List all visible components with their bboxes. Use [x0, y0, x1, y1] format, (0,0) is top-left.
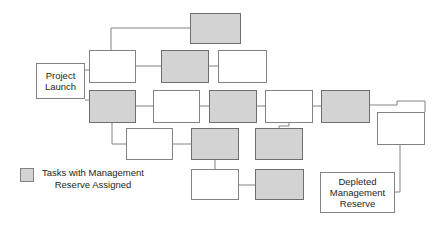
legend-label-line2: Reserve Assigned — [38, 179, 148, 191]
network-diagram-canvas: Project Launch Depleted Management Reser… — [0, 0, 446, 227]
node-task-r3-c3[interactable] — [209, 90, 257, 123]
node-task-r3-c6[interactable] — [377, 112, 425, 145]
node-project-launch[interactable]: Project Launch — [36, 63, 85, 99]
node-project-launch-label: Project Launch — [45, 70, 76, 92]
node-task-r3-c4[interactable] — [265, 90, 313, 123]
node-task-r5-c2[interactable] — [255, 169, 304, 200]
node-task-r2-c1[interactable] — [89, 50, 136, 83]
node-task-r2-c3[interactable] — [218, 50, 267, 83]
node-task-r3-c1[interactable] — [89, 90, 136, 123]
node-task-r4-c2[interactable] — [191, 128, 239, 160]
edge-r3c1-to-r4c1 — [112, 123, 126, 144]
node-depleted-management-reserve[interactable]: Depleted Management Reserve — [320, 172, 395, 213]
node-task-r5-c1[interactable] — [191, 169, 239, 200]
node-task-r4-c1[interactable] — [126, 128, 173, 160]
edge-r3c6-to-depleted — [395, 145, 400, 192]
node-task-r3-c2[interactable] — [153, 90, 200, 123]
node-task-r4-c3[interactable] — [255, 128, 303, 160]
node-depleted-management-reserve-label: Depleted Management Reserve — [330, 176, 385, 210]
legend-reserve-swatch — [20, 168, 34, 182]
node-task-r3-c5[interactable] — [321, 90, 370, 123]
node-task-r2-c2[interactable] — [161, 50, 209, 83]
edge-r2c1-to-top-reserve — [111, 28, 190, 50]
node-task-top-reserve[interactable] — [190, 13, 241, 44]
edge-r3c5-to-r3c6 — [370, 101, 425, 112]
legend-label-line1: Tasks with Management — [38, 167, 148, 179]
